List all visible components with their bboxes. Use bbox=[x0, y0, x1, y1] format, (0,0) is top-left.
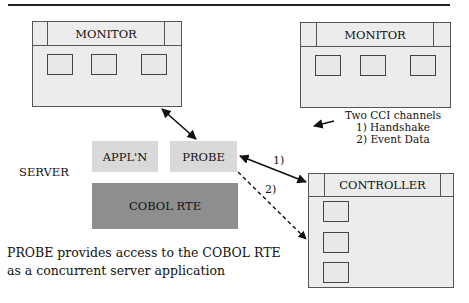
note-pointer-arrow bbox=[314, 121, 334, 126]
event-data-arrow bbox=[238, 172, 306, 239]
handshake-arrow bbox=[240, 156, 306, 182]
monitor-probe-arrow bbox=[162, 109, 196, 139]
connector-arrows bbox=[0, 0, 469, 303]
